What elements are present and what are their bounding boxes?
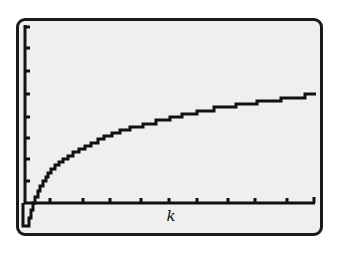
x-axis-label: k <box>163 207 179 225</box>
